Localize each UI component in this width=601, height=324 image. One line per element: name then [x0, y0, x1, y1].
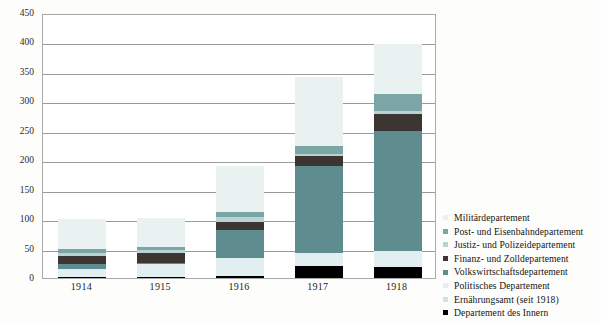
bar-segment[interactable]	[295, 166, 343, 253]
legend-item[interactable]: Militärdepartement	[443, 211, 598, 225]
y-axis-tick-label: 100	[20, 215, 34, 225]
y-axis-tick-label: 250	[20, 127, 34, 137]
x-axis-tick-label: 1916	[204, 281, 274, 292]
legend-item-label: Politisches Departement	[454, 281, 550, 291]
legend-item[interactable]: Ernährungsamt (seit 1918)	[443, 293, 598, 307]
bar-segment[interactable]	[58, 219, 106, 248]
bar-segment[interactable]	[58, 269, 106, 277]
bar-segment[interactable]	[137, 253, 185, 262]
bar-segment[interactable]	[216, 222, 264, 230]
legend-swatch-icon	[443, 270, 448, 275]
y-axis-labels: 050100150200250300350400450	[0, 14, 38, 279]
legend-item-label: Post- und Eisenbahndepartement	[454, 227, 583, 237]
bar-segment[interactable]	[374, 267, 422, 278]
y-axis-tick-label: 450	[20, 9, 34, 19]
legend-item[interactable]: Justiz- und Polizeidepartement	[443, 238, 598, 252]
legend-swatch-icon	[443, 229, 448, 234]
bar-segment[interactable]	[374, 251, 422, 267]
legend-swatch-icon	[443, 297, 448, 302]
y-axis-tick-label: 400	[20, 39, 34, 49]
legend-swatch-icon	[443, 283, 448, 288]
legend-item-label: Finanz- und Zolldepartement	[454, 254, 569, 264]
plot-area	[42, 14, 436, 279]
bar-segment[interactable]	[374, 114, 422, 131]
bar-segment[interactable]	[295, 156, 343, 166]
legend-item[interactable]: Volkswirtschaftsdepartement	[443, 265, 598, 279]
legend-item[interactable]: Departement des Innern	[443, 306, 598, 320]
bar-segment[interactable]	[216, 166, 264, 211]
y-axis-tick-label: 300	[20, 98, 34, 108]
bar-segment[interactable]	[374, 131, 422, 251]
legend-swatch-icon	[443, 256, 448, 261]
bar-segment[interactable]	[58, 256, 106, 265]
legend-swatch-icon	[443, 215, 448, 220]
x-axis-tick-label: 1917	[283, 281, 353, 292]
bar-segment[interactable]	[374, 44, 422, 93]
chart-legend: MilitärdepartementPost- und Eisenbahndep…	[443, 211, 598, 320]
x-axis-tick-label: 1914	[46, 281, 116, 292]
legend-item-label: Departement des Innern	[454, 308, 548, 318]
bar-segment[interactable]	[137, 277, 185, 278]
bar-segment[interactable]	[216, 276, 264, 278]
bar-segment[interactable]	[216, 230, 264, 258]
legend-swatch-icon	[443, 310, 448, 315]
legend-item-label: Justiz- und Polizeidepartement	[454, 240, 575, 250]
bars-container	[43, 15, 435, 278]
bar-segment[interactable]	[137, 264, 185, 277]
x-axis-tick-label: 1915	[125, 281, 195, 292]
bar-segment[interactable]	[295, 77, 343, 146]
legend-item[interactable]: Politisches Departement	[443, 279, 598, 293]
bar-segment[interactable]	[374, 94, 422, 112]
bar-segment[interactable]	[216, 258, 264, 276]
legend-swatch-icon	[443, 242, 448, 247]
bar-group-1916[interactable]	[216, 166, 264, 278]
bar-segment[interactable]	[58, 277, 106, 278]
bar-group-1918[interactable]	[374, 44, 422, 278]
legend-item[interactable]: Post- und Eisenbahndepartement	[443, 225, 598, 239]
bar-segment[interactable]	[137, 218, 185, 247]
y-axis-tick-label: 50	[25, 245, 35, 255]
bar-segment[interactable]	[295, 253, 343, 266]
legend-item[interactable]: Finanz- und Zolldepartement	[443, 252, 598, 266]
legend-item-label: Ernährungsamt (seit 1918)	[454, 295, 559, 305]
bar-segment[interactable]	[295, 266, 343, 278]
x-axis-labels: 19141915191619171918	[42, 281, 436, 299]
bar-group-1917[interactable]	[295, 77, 343, 278]
y-axis-tick-label: 150	[20, 186, 34, 196]
stacked-bar-chart: 050100150200250300350400450 191419151916…	[0, 0, 601, 324]
y-axis-tick-label: 200	[20, 156, 34, 166]
x-axis-tick-label: 1918	[362, 281, 432, 292]
bar-group-1914[interactable]	[58, 219, 106, 278]
bar-segment[interactable]	[295, 146, 343, 154]
y-axis-tick-label: 350	[20, 68, 34, 78]
legend-item-label: Volkswirtschaftsdepartement	[454, 267, 568, 277]
bar-group-1915[interactable]	[137, 218, 185, 278]
legend-item-label: Militärdepartement	[454, 213, 530, 223]
y-axis-tick-label: 0	[29, 274, 34, 284]
